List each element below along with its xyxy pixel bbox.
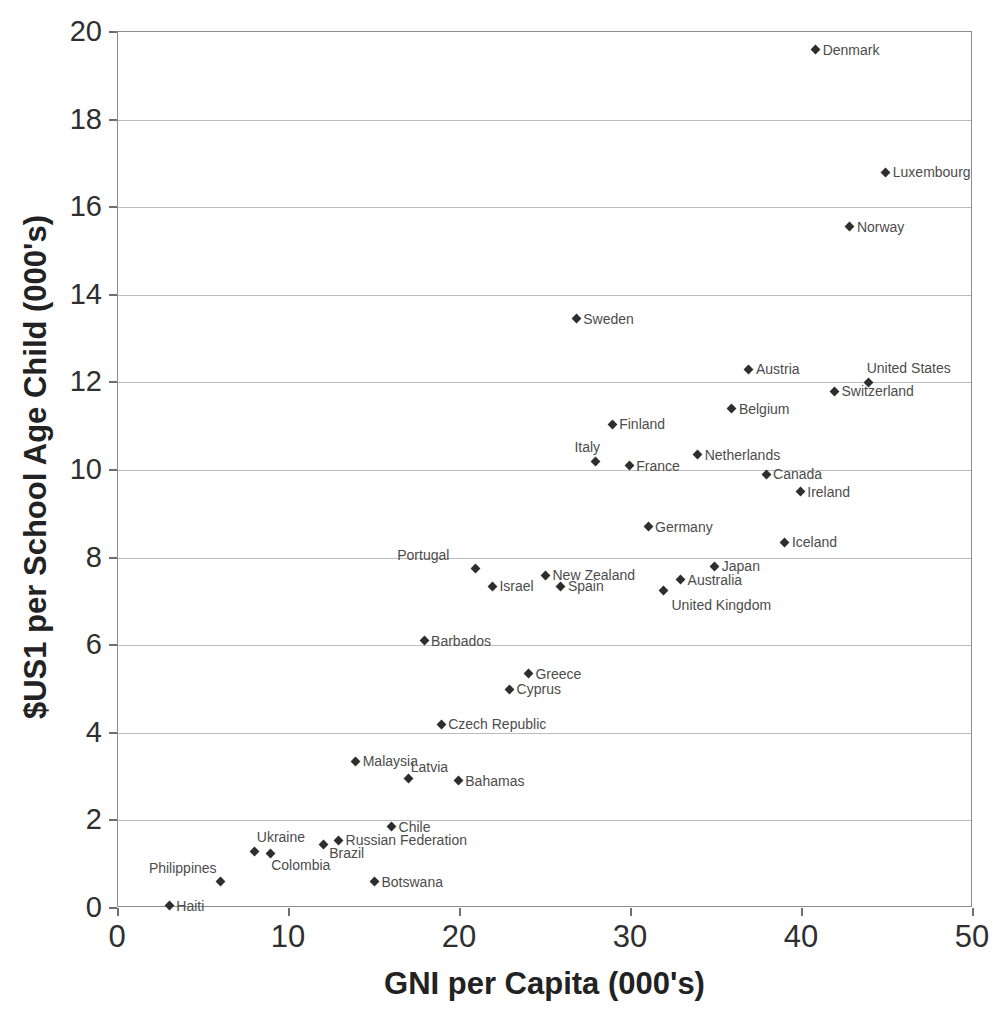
gridline-y-16 — [118, 207, 971, 208]
data-point-malaysia — [351, 756, 361, 766]
data-point-label-barbados: Barbados — [431, 633, 491, 649]
y-tick-label-0: 0 — [30, 892, 102, 922]
data-point-italy — [590, 456, 600, 466]
data-point-chile — [387, 822, 397, 832]
y-tick-mark — [109, 644, 117, 646]
gridline-y-14 — [118, 295, 971, 296]
x-tick-mark — [459, 908, 461, 916]
data-point-label-netherlands: Netherlands — [705, 447, 781, 463]
y-tick-label-14: 14 — [30, 279, 102, 309]
data-point-label-botswana: Botswana — [382, 874, 443, 890]
y-tick-label-8: 8 — [30, 542, 102, 572]
x-tick-mark — [972, 908, 974, 916]
data-point-label-colombia: Colombia — [271, 857, 330, 873]
data-point-label-finland: Finland — [619, 416, 665, 432]
data-point-czech-republic — [436, 719, 446, 729]
data-point-label-czech-republic: Czech Republic — [448, 716, 546, 732]
gridline-y-6 — [118, 645, 971, 646]
data-point-label-malaysia: Malaysia — [363, 753, 418, 769]
y-tick-mark — [109, 206, 117, 208]
x-tick-mark — [117, 908, 119, 916]
x-tick-label-30: 30 — [613, 920, 647, 954]
data-point-label-iceland: Iceland — [792, 534, 837, 550]
x-tick-label-20: 20 — [442, 920, 476, 954]
data-point-label-philippines: Philippines — [149, 860, 217, 876]
y-tick-label-6: 6 — [30, 629, 102, 659]
y-tick-mark — [109, 907, 117, 909]
y-tick-mark — [109, 119, 117, 121]
y-tick-mark — [109, 31, 117, 33]
data-point-germany — [643, 522, 653, 532]
x-tick-mark — [801, 908, 803, 916]
plot-area: DenmarkLuxembourgNorwaySwedenAustriaUnit… — [117, 31, 972, 907]
x-tick-mark — [288, 908, 290, 916]
data-point-label-canada: Canada — [773, 466, 822, 482]
y-tick-label-18: 18 — [30, 104, 102, 134]
gridline-y-4 — [118, 733, 971, 734]
data-point-portugal — [470, 564, 480, 574]
y-tick-label-10: 10 — [30, 454, 102, 484]
gridline-y-18 — [118, 120, 971, 121]
data-point-finland — [607, 419, 617, 429]
data-point-russian-federation — [334, 835, 344, 845]
y-tick-label-16: 16 — [30, 191, 102, 221]
data-point-philippines — [216, 877, 226, 887]
data-point-latvia — [404, 774, 414, 784]
y-tick-mark — [109, 469, 117, 471]
x-tick-mark — [630, 908, 632, 916]
data-point-label-belgium: Belgium — [739, 401, 790, 417]
data-point-greece — [523, 669, 533, 679]
data-point-ireland — [795, 487, 805, 497]
x-tick-label-0: 0 — [108, 920, 125, 954]
data-point-brazil — [318, 840, 328, 850]
data-point-label-austria: Austria — [756, 361, 800, 377]
x-tick-label-10: 10 — [271, 920, 305, 954]
data-point-label-israel: Israel — [499, 578, 533, 594]
y-tick-label-12: 12 — [30, 366, 102, 396]
data-point-denmark — [811, 45, 821, 55]
data-point-haiti — [164, 901, 174, 911]
y-tick-mark — [109, 381, 117, 383]
data-point-ukraine — [250, 846, 260, 856]
data-point-switzerland — [830, 386, 840, 396]
data-point-cyprus — [505, 684, 515, 694]
gridline-y-2 — [118, 820, 971, 821]
y-tick-label-20: 20 — [30, 16, 102, 46]
data-point-sweden — [571, 314, 581, 324]
data-point-label-united-kingdom: United Kingdom — [671, 597, 771, 613]
y-tick-mark — [109, 819, 117, 821]
gridline-y-10 — [118, 470, 971, 471]
scatter-chart: DenmarkLuxembourgNorwaySwedenAustriaUnit… — [0, 0, 1003, 1026]
gridline-y-8 — [118, 558, 971, 559]
data-point-japan — [710, 561, 720, 571]
data-point-label-haiti: Haiti — [176, 898, 204, 914]
data-point-bahamas — [453, 776, 463, 786]
data-point-belgium — [727, 404, 737, 414]
data-point-label-switzerland: Switzerland — [841, 383, 913, 399]
data-point-iceland — [780, 537, 790, 547]
y-tick-mark — [109, 557, 117, 559]
data-point-luxembourg — [881, 167, 891, 177]
data-point-new-zealand — [541, 570, 551, 580]
data-point-united-kingdom — [659, 585, 669, 595]
data-point-label-sweden: Sweden — [583, 311, 634, 327]
data-point-australia — [676, 575, 686, 585]
data-point-netherlands — [693, 450, 703, 460]
data-point-israel — [488, 581, 498, 591]
data-point-label-ukraine: Ukraine — [257, 829, 305, 845]
data-point-label-latvia: Latvia — [411, 759, 448, 775]
data-point-label-germany: Germany — [655, 519, 713, 535]
data-point-norway — [845, 222, 855, 232]
y-tick-mark — [109, 294, 117, 296]
data-point-label-united-states: United States — [867, 360, 951, 376]
data-point-label-bahamas: Bahamas — [465, 773, 524, 789]
y-tick-mark — [109, 732, 117, 734]
data-point-austria — [744, 364, 754, 374]
y-tick-label-2: 2 — [30, 804, 102, 834]
data-point-botswana — [370, 877, 380, 887]
data-point-label-portugal: Portugal — [397, 547, 449, 563]
data-point-label-denmark: Denmark — [823, 42, 880, 58]
data-point-label-spain: Spain — [568, 578, 604, 594]
data-point-label-australia: Australia — [688, 572, 742, 588]
data-point-label-brazil: Brazil — [329, 845, 364, 861]
